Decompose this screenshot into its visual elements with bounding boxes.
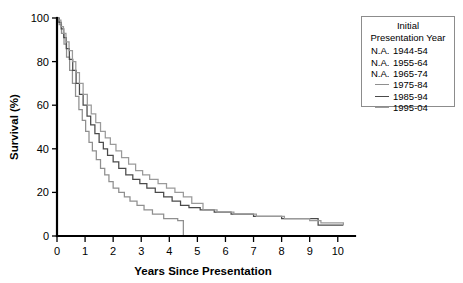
x-tick-label-10: 10 — [332, 245, 344, 257]
legend-na-marker-1955-64: N.A. — [371, 57, 393, 68]
curves-layer — [57, 18, 343, 236]
curve-1985-94 — [57, 18, 343, 225]
survival-chart-figure: 020406080100012345678910Years Since Pres… — [0, 0, 463, 283]
legend-dash-icon — [375, 107, 389, 108]
x-tick-label-1: 1 — [82, 245, 88, 257]
y-tick-label-60: 60 — [37, 99, 49, 111]
legend-title-line-1: Initial — [362, 20, 454, 32]
legend-label-1965-74: 1965-74 — [393, 68, 428, 79]
legend-label-1955-64: 1955-64 — [393, 57, 428, 68]
legend-item-1944-54: N.A.1944-54 — [362, 45, 454, 56]
x-tick-label-2: 2 — [110, 245, 116, 257]
legend-label-1944-54: 1944-54 — [393, 45, 428, 56]
legend-item-1995-04: 1995-04 — [362, 102, 454, 113]
legend-item-1985-94: 1985-94 — [362, 91, 454, 102]
legend-entries: N.A.1944-54N.A.1955-64N.A.1965-741975-84… — [362, 45, 454, 113]
legend-na-marker-1944-54: N.A. — [371, 45, 393, 56]
x-tick-label-9: 9 — [307, 245, 313, 257]
legend-line-swatch-1985-94 — [371, 91, 393, 102]
x-tick-label-4: 4 — [166, 245, 172, 257]
x-tick-label-0: 0 — [54, 245, 60, 257]
x-tick-label-3: 3 — [138, 245, 144, 257]
legend-item-1965-74: N.A.1965-74 — [362, 68, 454, 79]
y-tick-label-80: 80 — [37, 56, 49, 68]
legend-label-1975-84: 1975-84 — [393, 79, 428, 90]
y-tick-label-0: 0 — [43, 230, 49, 242]
axis-labels-layer: 020406080100012345678910Years Since Pres… — [8, 12, 344, 277]
legend-title-line-2: Presentation Year — [362, 32, 454, 44]
x-tick-label-5: 5 — [194, 245, 200, 257]
legend-dash-icon — [375, 96, 389, 97]
x-tick-label-6: 6 — [222, 245, 228, 257]
y-axis-title: Survival (%) — [8, 94, 20, 160]
legend-item-1955-64: N.A.1955-64 — [362, 56, 454, 67]
curve-1975-84 — [57, 18, 183, 236]
legend: Initial Presentation Year N.A.1944-54N.A… — [361, 16, 455, 107]
x-axis-title: Years Since Presentation — [134, 265, 271, 277]
legend-item-1975-84: 1975-84 — [362, 79, 454, 90]
y-tick-label-20: 20 — [37, 186, 49, 198]
legend-label-1985-94: 1985-94 — [393, 91, 428, 102]
y-tick-label-100: 100 — [31, 12, 49, 24]
y-tick-label-40: 40 — [37, 143, 49, 155]
legend-dash-icon — [375, 84, 389, 85]
legend-na-marker-1965-74: N.A. — [371, 68, 393, 79]
legend-label-1995-04: 1995-04 — [393, 102, 428, 113]
x-tick-label-8: 8 — [279, 245, 285, 257]
legend-line-swatch-1975-84 — [371, 79, 393, 90]
legend-line-swatch-1995-04 — [371, 102, 393, 113]
curve-1995-04 — [57, 18, 343, 225]
x-tick-label-7: 7 — [250, 245, 256, 257]
